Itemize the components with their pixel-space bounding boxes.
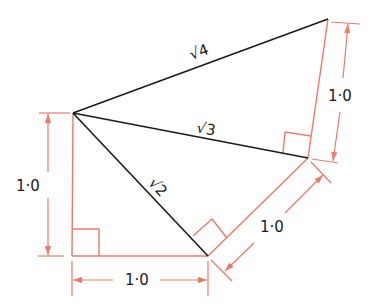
dimension-label-left: 1·0 [16,177,40,195]
dimension-label-bottom: 1·0 [125,271,149,289]
label-sqrt4: √4 [187,40,211,63]
dimension-label-right: 1·0 [328,87,352,105]
label-sqrt2: √2 [145,174,171,200]
dimension-label-diagonal: 1·0 [260,218,284,236]
right-angle-marker-D [283,132,311,153]
right-angle-marker-B [72,229,99,256]
label-sqrt3: √3 [195,118,217,139]
hypotenuse-sqrt4 [73,19,328,113]
construction-diagram: 1·0 1·0 1·0 1·0 √4 √3 √2 [0,0,380,307]
side-AB [72,113,73,256]
side-DE [308,19,328,158]
diagram-canvas: 1·0 1·0 1·0 1·0 √4 √3 √2 [0,0,380,307]
side-CD [208,158,308,256]
right-angle-marker-C [193,219,227,238]
dimension-left [38,113,70,256]
